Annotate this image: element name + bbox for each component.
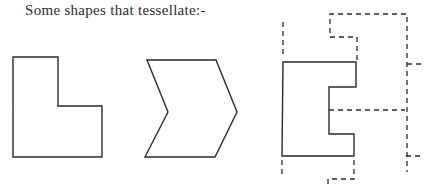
tessellation-diagram	[0, 0, 430, 192]
notched-shape	[282, 62, 356, 156]
adjacent-tile-top-dashed-outline	[330, 14, 407, 172]
adjacent-tile-bottom-dashed-outline	[328, 160, 354, 186]
l-shape	[13, 57, 102, 157]
chevron-shape	[145, 60, 237, 157]
